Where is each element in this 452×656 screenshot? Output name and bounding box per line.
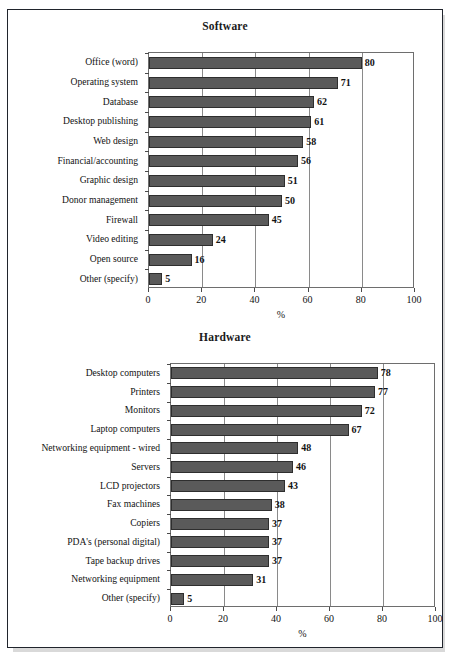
bar-value-label: 16 — [195, 255, 205, 265]
category-label: Copiers — [130, 518, 166, 528]
x-tick-mark-100 — [414, 288, 415, 292]
category-label: Printers — [130, 387, 166, 397]
bar-value-label: 77 — [378, 387, 388, 397]
y-tick-mark — [145, 151, 149, 152]
bar — [171, 424, 349, 436]
x-tick-mark-60 — [329, 607, 330, 611]
x-axis-caption: % — [298, 629, 306, 639]
bar — [171, 518, 269, 530]
category-label: LCD projectors — [100, 481, 166, 491]
category-label: Monitors — [125, 405, 166, 415]
y-tick-mark — [167, 477, 171, 478]
y-tick-mark — [145, 210, 149, 211]
x-tick-mark-60 — [308, 288, 309, 292]
bar-value-label: 56 — [301, 156, 311, 166]
x-tick-label-0: 0 — [168, 614, 173, 624]
bar-value-label: 67 — [352, 425, 362, 435]
bar-value-label: 5 — [165, 274, 170, 284]
category-label: Operating system — [71, 77, 144, 87]
x-tick-label-60: 60 — [324, 614, 334, 624]
category-label: Open source — [90, 254, 144, 264]
bar — [171, 461, 293, 473]
category-label: Networking equipment — [71, 574, 166, 584]
bar-value-label: 24 — [216, 235, 226, 245]
category-label: Database — [103, 97, 144, 107]
bar-value-label: 61 — [314, 117, 324, 127]
y-tick-mark — [167, 420, 171, 421]
category-label: Financial/accounting — [58, 156, 144, 166]
y-tick-mark — [167, 589, 171, 590]
category-label: Graphic design — [80, 175, 144, 185]
category-label: Desktop computers — [86, 368, 166, 378]
y-tick-mark — [167, 533, 171, 534]
x-tick-mark-40 — [276, 607, 277, 611]
bar-value-label: 48 — [301, 443, 311, 453]
bar — [149, 195, 282, 207]
software-chart-title: Software — [8, 12, 442, 32]
y-tick-mark — [167, 552, 171, 553]
category-label: Fax machines — [107, 499, 166, 509]
bar-value-label: 37 — [272, 519, 282, 529]
y-tick-mark — [145, 53, 149, 54]
x-tick-label-40: 40 — [249, 295, 259, 305]
x-tick-mark-0 — [170, 607, 171, 611]
bar — [171, 480, 285, 492]
y-tick-mark — [145, 171, 149, 172]
bar-value-label: 38 — [275, 500, 285, 510]
category-label: Other (specify) — [80, 274, 144, 284]
category-label: Video editing — [86, 234, 144, 244]
category-label: Donor management — [62, 195, 144, 205]
bar-value-label: 43 — [288, 481, 298, 491]
bar — [171, 367, 378, 379]
x-tick-label-20: 20 — [196, 295, 206, 305]
category-label: Networking equipment - wired — [41, 443, 166, 453]
y-tick-mark — [167, 495, 171, 496]
gridline-80 — [362, 53, 363, 287]
bar — [149, 254, 192, 266]
category-label: Desktop publishing — [63, 116, 144, 126]
x-tick-label-100: 100 — [407, 295, 422, 305]
bar-value-label: 78 — [381, 368, 391, 378]
hardware-chart: Hardware Desktop computersPrintersMonito… — [8, 322, 442, 647]
y-tick-mark — [145, 191, 149, 192]
bar — [149, 234, 213, 246]
x-tick-label-60: 60 — [303, 295, 313, 305]
bar-value-label: 37 — [272, 537, 282, 547]
category-label: Web design — [93, 136, 144, 146]
x-tick-mark-100 — [435, 607, 436, 611]
bar — [149, 136, 303, 148]
x-tick-mark-0 — [148, 288, 149, 292]
bar — [171, 405, 362, 417]
y-tick-mark — [145, 132, 149, 133]
x-tick-mark-80 — [382, 607, 383, 611]
bar-value-label: 80 — [365, 58, 375, 68]
y-tick-mark — [167, 439, 171, 440]
y-tick-mark — [145, 230, 149, 231]
y-tick-mark — [167, 383, 171, 384]
bar — [171, 536, 269, 548]
gridline-80 — [383, 364, 384, 606]
category-label: Other (specify) — [102, 593, 166, 603]
x-tick-mark-20 — [201, 288, 202, 292]
category-label: PDA's (personal digital) — [67, 537, 166, 547]
bar — [149, 155, 298, 167]
x-tick-mark-40 — [254, 288, 255, 292]
bar-value-label: 51 — [288, 176, 298, 186]
x-tick-label-100: 100 — [428, 614, 443, 624]
x-tick-label-20: 20 — [218, 614, 228, 624]
category-label: Office (word) — [85, 57, 144, 67]
bar — [171, 593, 184, 605]
y-tick-mark — [167, 458, 171, 459]
bar — [149, 214, 269, 226]
x-tick-label-40: 40 — [271, 614, 281, 624]
x-tick-label-0: 0 — [146, 295, 151, 305]
bar — [149, 57, 362, 69]
bar-value-label: 72 — [365, 406, 375, 416]
y-tick-mark — [145, 92, 149, 93]
bar-value-label: 62 — [317, 97, 327, 107]
bar — [149, 116, 311, 128]
category-label: Firewall — [106, 215, 144, 225]
bar-value-label: 58 — [306, 137, 316, 147]
y-tick-mark — [145, 112, 149, 113]
x-tick-mark-20 — [223, 607, 224, 611]
